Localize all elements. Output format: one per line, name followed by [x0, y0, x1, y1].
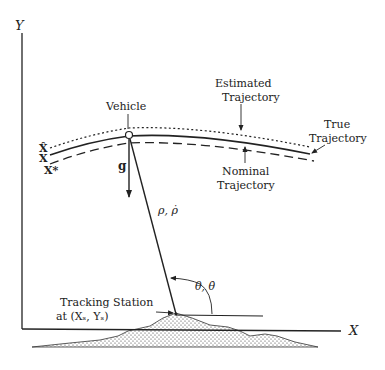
angle-label: θ, θ̇: [195, 280, 216, 293]
station-label-line1: Tracking Station: [60, 296, 153, 309]
tracking-station-marker: [175, 313, 178, 316]
trajectory-diagram: Y X X̂ X X* Vehicle g ρ, ρ̇ θ, θ̇ Tracki…: [0, 0, 385, 370]
range-line: [130, 139, 176, 314]
vehicle-marker: [126, 132, 133, 139]
nominal-trajectory-curve: [50, 143, 314, 164]
true-trajectory-curve: [50, 135, 310, 155]
y-axis-label: Y: [15, 18, 25, 33]
trajectories: [50, 128, 314, 164]
range-label: ρ, ρ̇: [157, 204, 178, 217]
true-trajectory-pointer: [312, 145, 325, 153]
estimated-trajectory-label-1: Estimated: [215, 77, 272, 90]
true-trajectory-label-1: True: [324, 118, 350, 131]
gravity-label: g: [118, 159, 127, 173]
axes: [22, 33, 341, 331]
station-horizontal: [176, 315, 263, 316]
state-label-nominal: X*: [44, 164, 59, 177]
vehicle-label: Vehicle: [105, 100, 146, 113]
true-trajectory-label-2: Trajectory: [309, 132, 368, 145]
nominal-trajectory-label-1: Nominal: [222, 165, 270, 178]
nominal-trajectory-label-2: Trajectory: [217, 179, 276, 192]
station-pointer: [156, 312, 173, 313]
estimated-trajectory-label-2: Trajectory: [222, 91, 281, 104]
estimated-trajectory-curve: [50, 128, 310, 148]
station-label-line2: at (Xₛ, Yₛ): [56, 310, 109, 323]
x-axis-label: X: [348, 323, 359, 338]
